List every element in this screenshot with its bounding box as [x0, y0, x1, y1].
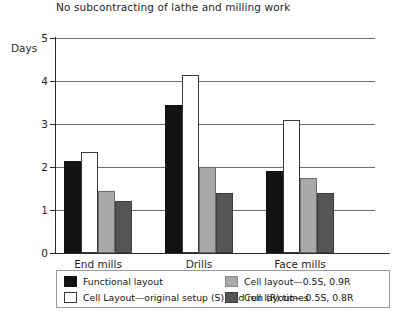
bar	[283, 120, 300, 253]
legend-item: Cell layout— 0.5S, 0.8R	[225, 292, 353, 303]
y-tick-label: 3	[28, 118, 48, 130]
tick-mark-4	[50, 81, 55, 82]
bar-group	[266, 38, 334, 253]
legend-label: Cell layout—0.5S, 0.9R	[244, 276, 350, 287]
y-tick-label: 2	[28, 161, 48, 173]
category-label: Face mills	[274, 258, 326, 270]
legend-swatch-icon	[64, 276, 77, 287]
plot-area	[56, 38, 375, 253]
bar-group	[64, 38, 132, 253]
bar-group	[165, 38, 233, 253]
category-label: End mills	[74, 258, 122, 270]
legend-swatch-icon	[225, 276, 238, 287]
legend-swatch-icon	[225, 292, 238, 303]
bar-chart: No subcontracting of lathe and milling w…	[0, 0, 408, 326]
legend-label: Functional layout	[83, 276, 163, 287]
bar	[216, 193, 233, 253]
legend-swatch-icon	[64, 292, 77, 303]
tick-mark-2	[50, 167, 55, 168]
bar	[98, 191, 115, 253]
tick-mark-5	[50, 38, 55, 39]
bar	[64, 161, 81, 253]
chart-legend: Functional layoutCell Layout—original se…	[56, 270, 390, 308]
bar	[165, 105, 182, 253]
y-tick-label: 5	[28, 32, 48, 44]
bar	[81, 152, 98, 253]
legend-item: Functional layout	[64, 276, 163, 287]
tick-mark-3	[50, 124, 55, 125]
tick-mark-1	[50, 210, 55, 211]
y-tick-label: 4	[28, 75, 48, 87]
bar	[115, 201, 132, 253]
bar	[199, 167, 216, 253]
bar	[266, 171, 283, 253]
tick-mark-0	[50, 253, 55, 254]
legend-label: Cell layout— 0.5S, 0.8R	[244, 292, 353, 303]
legend-item: Cell layout—0.5S, 0.9R	[225, 276, 350, 287]
bar	[300, 178, 317, 253]
category-label: Drills	[186, 258, 213, 270]
y-tick-label: 0	[28, 247, 48, 259]
y-tick-label: 1	[28, 204, 48, 216]
bar	[317, 193, 334, 253]
bar	[182, 75, 199, 253]
chart-title: No subcontracting of lathe and milling w…	[56, 1, 290, 13]
